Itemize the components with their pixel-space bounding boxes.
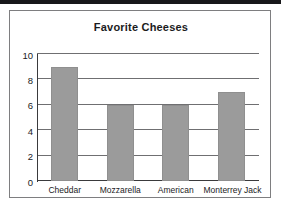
y-tick-label-0: 0 — [11, 178, 33, 188]
page-background: Favorite Cheeses 0246810 CheddarMozzarel… — [0, 4, 281, 211]
y-tick-label-6: 6 — [11, 101, 33, 111]
y-tick-label-8: 8 — [11, 76, 33, 86]
x-tick-label-cheddar: Cheddar — [37, 184, 93, 196]
chart-figure-frame: Favorite Cheeses 0246810 CheddarMozzarel… — [9, 10, 271, 198]
bar-series — [37, 54, 259, 181]
y-axis-tick-labels: 0246810 — [10, 54, 33, 182]
y-tick-label-10: 10 — [11, 51, 33, 61]
x-tick-label-mozzarella: Mozzarella — [93, 184, 149, 196]
bar-mozzarella — [107, 105, 134, 181]
bar-cheddar — [51, 67, 78, 181]
y-tick-label-4: 4 — [11, 127, 33, 137]
bar-monterrey-jack — [218, 92, 245, 181]
y-tick-label-2: 2 — [11, 152, 33, 162]
x-axis-tick-labels: CheddarMozzarellaAmericanMonterrey Jack — [37, 184, 269, 198]
chart-title: Favorite Cheeses — [10, 21, 272, 33]
x-tick-label-american: American — [148, 184, 204, 196]
bar-american — [162, 105, 189, 181]
x-tick-label-monterrey-jack: Monterrey Jack — [204, 184, 260, 196]
